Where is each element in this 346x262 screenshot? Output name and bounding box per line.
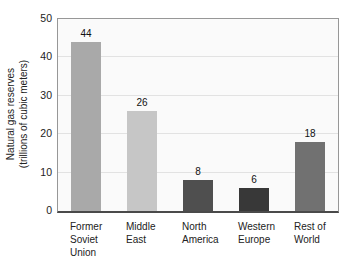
category-label-line: North xyxy=(182,220,219,233)
category-label-line: Rest of xyxy=(294,220,326,233)
y-tick-label-30: 30 xyxy=(40,89,52,101)
plot-area: 44268618 xyxy=(57,18,339,213)
category-label-rest-of-world: Rest ofWorld xyxy=(294,220,326,246)
y-axis-title-line1: Natural gas reserves xyxy=(4,13,17,215)
category-label-line: East xyxy=(126,233,155,246)
bar-value-label: 26 xyxy=(136,98,147,108)
category-label-middle-east: MiddleEast xyxy=(126,220,155,246)
bar-value-label: 6 xyxy=(251,175,257,185)
y-tick-label-20: 20 xyxy=(40,127,52,139)
category-label-line: Soviet xyxy=(70,233,102,246)
y-tick-label-10: 10 xyxy=(40,166,52,178)
bar-value-label: 18 xyxy=(304,129,315,139)
y-tick-label-40: 40 xyxy=(40,50,52,62)
bar-north-america xyxy=(183,180,213,211)
y-tick-label-0: 0 xyxy=(46,204,52,216)
category-label-line: Former xyxy=(70,220,102,233)
y-tick-label-50: 50 xyxy=(40,12,52,24)
bar-former-soviet-union xyxy=(71,42,101,211)
category-label-line: Union xyxy=(70,246,102,259)
y-axis-title: Natural gas reserves (trillions of cubic… xyxy=(4,13,38,215)
category-label-line: World xyxy=(294,233,326,246)
category-label-line: Europe xyxy=(238,233,275,246)
category-label-line: Middle xyxy=(126,220,155,233)
bar-value-label: 44 xyxy=(80,29,91,39)
category-label-north-america: NorthAmerica xyxy=(182,220,219,246)
bar-middle-east xyxy=(127,111,157,211)
category-label-line: America xyxy=(182,233,219,246)
bar-chart-figure: Natural gas reserves (trillions of cubic… xyxy=(0,0,346,262)
bar-value-label: 8 xyxy=(195,167,201,177)
y-axis-title-line2: (trillions of cubic meters) xyxy=(17,13,30,215)
category-label-western-europe: WesternEurope xyxy=(238,220,275,246)
bar-western-europe xyxy=(239,188,269,211)
category-label-line: Western xyxy=(238,220,275,233)
bar-rest-of-world xyxy=(295,142,325,211)
category-label-former-soviet-union: FormerSovietUnion xyxy=(70,220,102,259)
